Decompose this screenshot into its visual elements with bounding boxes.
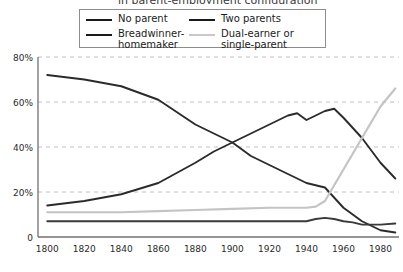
x-tick-label: 1960 [332, 244, 355, 254]
y-tick-label: 80% [13, 53, 33, 63]
series-line-3 [47, 218, 395, 225]
legend-label-breadwinner-homemaker: Breadwinner- homemaker [118, 29, 184, 50]
gridlines-group [38, 57, 399, 192]
chart-title-partial: in parent-employment configuration [118, 0, 388, 4]
x-tick-label: 1860 [147, 244, 170, 254]
x-tick-label: 1800 [36, 244, 59, 254]
legend-label-dual-earner-single-parent: Dual-earner or single-parent [221, 29, 294, 50]
x-tick-label: 1840 [110, 244, 133, 254]
x-tick-label: 1980 [369, 244, 392, 254]
legend-swatch-breadwinner-homemaker [86, 34, 112, 36]
y-tick-label: 20% [13, 188, 33, 198]
series-line-2 [47, 89, 395, 213]
x-tick-label: 1900 [221, 244, 244, 254]
legend-label-no-parent: No parent [118, 14, 168, 25]
y-tick-label: 0 [27, 233, 33, 243]
legend-item-breadwinner-homemaker[interactable]: Breadwinner- homemaker [80, 27, 183, 50]
y-tick-label: 40% [13, 143, 33, 153]
series-line-1 [47, 109, 395, 206]
series-lines-group [47, 75, 395, 233]
x-tick-labels-group: 1800182018401860188019001920194019601980 [36, 244, 392, 254]
y-tick-labels-group: 020%40%60%80% [13, 53, 33, 243]
legend-item-dual-earner-single-parent[interactable]: Dual-earner or single-parent [183, 27, 327, 50]
line-chart: in parent-employment configuration 020%4… [0, 0, 403, 272]
x-tick-label: 1920 [258, 244, 281, 254]
legend-label-two-parents: Two parents [221, 14, 281, 25]
legend-item-no-parent[interactable]: No parent [80, 10, 183, 25]
x-tick-label: 1940 [295, 244, 318, 254]
chart-legend: No parent Two parents Breadwinner- homem… [79, 9, 326, 48]
legend-swatch-dual-earner-single-parent [189, 34, 215, 36]
x-tick-label: 1880 [184, 244, 207, 254]
legend-swatch-two-parents [189, 19, 215, 21]
x-tick-label: 1820 [73, 244, 96, 254]
y-tick-label: 60% [13, 98, 33, 108]
legend-swatch-no-parent [86, 19, 112, 21]
legend-item-two-parents[interactable]: Two parents [183, 10, 327, 25]
